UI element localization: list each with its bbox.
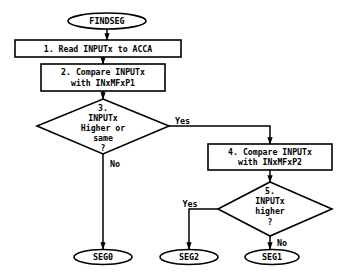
step2-label-line1: 2. Compare INPUTx	[61, 67, 145, 77]
node-end-seg1[interactable]: SEG1	[245, 250, 299, 265]
node-end-seg0[interactable]: SEG0	[74, 250, 132, 265]
flowchart-canvas: FINDSEG 1. Read INPUTx to ACCA 2. Compar…	[0, 0, 348, 279]
edge-label-decision3-no: No	[110, 159, 120, 169]
decision3-line2: INPUTx	[88, 113, 118, 123]
step1-label: 1. Read INPUTx to ACCA	[44, 44, 153, 54]
step2-label-line2: with INxMFxP1	[71, 78, 135, 88]
decision3-line4: same	[93, 133, 113, 143]
edge-label-decision5-yes: Yes	[182, 199, 197, 209]
decision5-line1: 5.	[265, 186, 275, 196]
seg0-label: SEG0	[93, 252, 113, 262]
decision5-line4: ?	[268, 217, 273, 227]
node-step2[interactable]: 2. Compare INPUTx with INxMFxP1	[41, 64, 165, 91]
node-decision5[interactable]: 5. INPUTx higher ?	[218, 182, 332, 236]
step4-label-line1: 4. Compare INPUTx	[228, 147, 312, 157]
node-start[interactable]: FINDSEG	[68, 13, 146, 29]
seg2-label: SEG2	[179, 252, 199, 262]
node-decision3[interactable]: 3. INPUTx Higher or same ?	[37, 99, 169, 154]
seg1-label: SEG1	[262, 252, 282, 262]
decision3-line5: ?	[101, 143, 106, 153]
flowchart-svg: FINDSEG 1. Read INPUTx to ACCA 2. Compar…	[0, 0, 348, 279]
start-label: FINDSEG	[89, 16, 124, 26]
decision3-line1: 3.	[98, 103, 108, 113]
decision5-line2: INPUTx	[255, 196, 285, 206]
decision5-no-label: No	[277, 238, 287, 248]
node-step1[interactable]: 1. Read INPUTx to ACCA	[15, 40, 181, 57]
decision3-yes-label: Yes	[175, 116, 190, 126]
decision5-yes-label: Yes	[182, 199, 197, 209]
edge-label-decision3-yes: Yes	[175, 116, 190, 126]
connector-decision5-yes-to-seg2	[189, 209, 218, 249]
node-end-seg2[interactable]: SEG2	[160, 250, 218, 265]
step4-label-line2: with INxMFxP2	[238, 157, 302, 167]
node-step4[interactable]: 4. Compare INPUTx with INxMFxP2	[208, 144, 332, 170]
decision3-line3: Higher or	[81, 123, 125, 133]
connector-decision3-yes-to-step4	[169, 126, 270, 144]
decision5-line3: higher	[255, 206, 285, 216]
edge-label-decision5-no: No	[277, 238, 287, 248]
decision3-no-label: No	[110, 159, 120, 169]
